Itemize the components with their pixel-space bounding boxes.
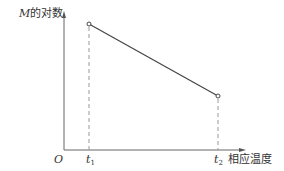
data-point-t2	[216, 94, 220, 98]
y-label-variable: M	[19, 7, 30, 20]
data-point-t1	[87, 22, 91, 26]
x-axis-label: 相应温度	[228, 154, 272, 165]
y-axis-label: M的对数	[19, 8, 63, 19]
origin-label: O	[54, 154, 63, 165]
x-tick-t1-sub: 1	[90, 159, 94, 167]
chart-canvas	[0, 0, 284, 171]
data-line	[89, 24, 218, 96]
x-tick-t2-sub: 2	[218, 159, 222, 167]
x-tick-t2: t2	[214, 154, 223, 167]
x-axis-arrow-icon	[239, 148, 246, 152]
x-tick-t1: t1	[86, 154, 95, 167]
y-label-text: 的对数	[30, 7, 63, 20]
